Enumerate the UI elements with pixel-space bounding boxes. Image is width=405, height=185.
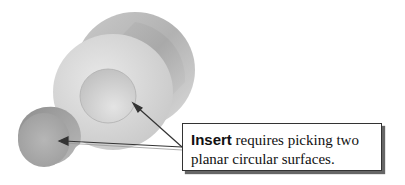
recess-face (80, 69, 136, 123)
figure: Insert requires picking two planar circu… (0, 0, 405, 185)
callout-box: Insert requires picking two planar circu… (182, 123, 382, 171)
callout-line-1: Insert requires picking two (191, 130, 373, 150)
callout-line-1-text: requires picking two (232, 132, 359, 148)
small-cylinder (18, 107, 81, 167)
callout-line-2: planar circular surfaces. (191, 150, 373, 169)
callout-keyword: Insert (191, 131, 232, 148)
